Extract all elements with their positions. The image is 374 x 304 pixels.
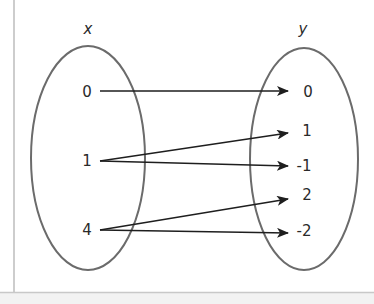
codomain-set-label: y xyxy=(298,20,309,38)
domain-element-0: 0 xyxy=(82,83,92,101)
codomain-element-1: 1 xyxy=(302,122,312,140)
arrow-1-to-neg1 xyxy=(100,161,288,166)
footer-strip xyxy=(0,293,374,304)
codomain-element-2: 2 xyxy=(302,186,312,204)
domain-element-4: 4 xyxy=(82,221,92,239)
domain-element-1: 1 xyxy=(82,152,92,170)
arrow-1-to-1 xyxy=(100,133,288,161)
arrow-4-to-neg2 xyxy=(100,230,288,233)
domain-set-label: x xyxy=(83,20,93,38)
codomain-element-0: 0 xyxy=(303,83,313,101)
codomain-element-neg2: -2 xyxy=(297,222,312,240)
diagram-svg: x y 0 1 4 0 1 -1 2 -2 xyxy=(0,0,374,304)
mapping-diagram: x y 0 1 4 0 1 -1 2 -2 xyxy=(0,0,374,304)
codomain-element-neg1: -1 xyxy=(297,157,312,175)
